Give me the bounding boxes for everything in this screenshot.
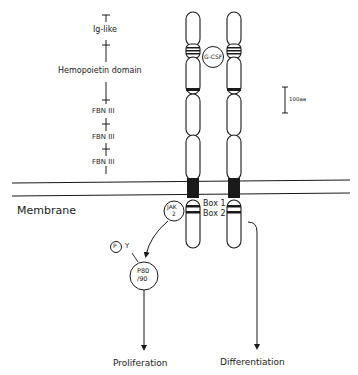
domain-stack-lines — [102, 15, 110, 174]
domain-label-hemopoietin: Hemopoietin domain — [58, 66, 142, 75]
scale-bar — [282, 87, 288, 113]
jak-to-p80-arrow — [146, 221, 168, 255]
membrane-label: Membrane — [17, 204, 76, 217]
phospho-label: P — [113, 242, 117, 249]
proliferation-label: Proliferation — [113, 358, 167, 368]
membrane-lines — [12, 180, 350, 196]
domain-label-ig-like: Ig-like — [93, 25, 117, 34]
receptor-diagram — [0, 0, 358, 375]
box1-label: Box 1 — [203, 199, 226, 208]
differentiation-label: Differentiation — [220, 357, 285, 367]
g-csf-label: G-CSF — [204, 53, 222, 60]
differentiation-arrow — [248, 222, 257, 347]
domain-label-fbn-3: FBN III — [92, 158, 114, 166]
scale-bar-label: 100aa — [289, 96, 306, 102]
jak-label: JAK — [167, 203, 177, 210]
domain-label-fbn-1: FBN III — [92, 107, 114, 115]
p80-label-line2: /90 — [137, 275, 147, 283]
p80-label-line1: P80 — [137, 267, 149, 275]
jak-number-label: 2 — [172, 210, 176, 217]
box2-label: Box 2 — [203, 209, 226, 218]
domain-label-fbn-2: FBN III — [92, 133, 114, 141]
tyrosine-label: Y — [125, 242, 129, 250]
